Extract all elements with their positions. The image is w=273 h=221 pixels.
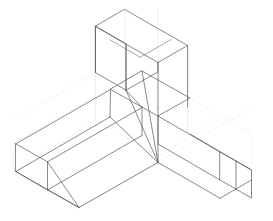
construction-back-plane-right — [190, 98, 252, 134]
center-junction-group — [110, 71, 190, 163]
left-branch-end-diagonal-a — [48, 162, 80, 208]
construction-geometry-group — [14, 44, 252, 208]
construction-floor-right — [158, 120, 220, 156]
junction-top-plate-fill — [111, 71, 191, 116]
left-branch-lower-edge — [16, 117, 110, 172]
isometric-drawing-canvas — [0, 0, 273, 221]
construction-back-plane-left — [14, 96, 95, 143]
left-branch-group — [16, 90, 158, 208]
junction-front-left-edge — [110, 90, 111, 118]
right-branch-group — [158, 116, 252, 198]
left-branch-top-edge — [16, 90, 111, 144]
left-branch-end-face-fill — [16, 144, 48, 190]
left-branch-near-bottom-edge — [79, 163, 158, 208]
right-branch-near-bottom-edge — [158, 144, 220, 180]
riser-top-face-fill — [95, 10, 187, 63]
left-branch-near-top-edge — [48, 108, 143, 162]
construction-floor-center — [95, 120, 158, 156]
right-branch-lower-long-edge — [158, 163, 220, 199]
left-branch-end-diagonal-c — [48, 190, 80, 208]
duct-fitting-illustration — [0, 0, 273, 221]
construction-ghost-top-left — [15, 73, 96, 120]
right-branch-top-edge — [158, 116, 220, 152]
